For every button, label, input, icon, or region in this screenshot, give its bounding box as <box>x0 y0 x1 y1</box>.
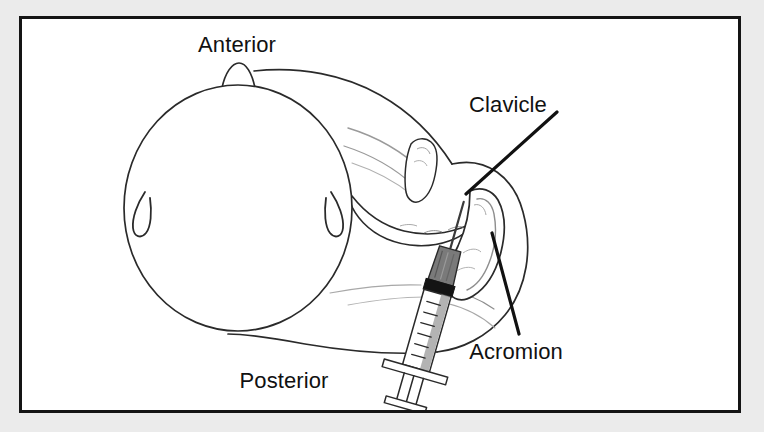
skull-outline <box>124 85 352 331</box>
label-clavicle: Clavicle <box>469 92 547 117</box>
label-anterior: Anterior <box>198 32 276 57</box>
figure-root: Anterior Posterior Clavicle Acromion <box>0 0 764 432</box>
label-posterior: Posterior <box>240 368 329 393</box>
label-acromion: Acromion <box>469 339 563 364</box>
illustration-canvas: Anterior Posterior Clavicle Acromion <box>0 0 764 432</box>
